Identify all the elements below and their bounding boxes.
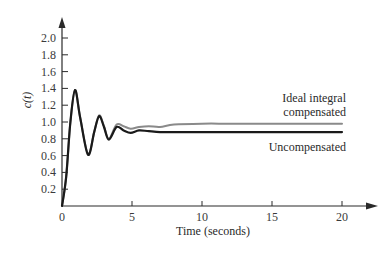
annotation-ideal-line2: compensated	[283, 105, 346, 119]
x-ticks: 05101520	[59, 201, 348, 224]
annotation-ideal-line1: Ideal integral	[282, 91, 346, 105]
y-ticks: 0.20.40.60.81.01.21.41.61.82.0	[41, 31, 68, 196]
x-tick-label: 5	[129, 210, 135, 224]
y-tick-label: 1.4	[41, 81, 56, 95]
y-axis-arrow-icon	[59, 17, 66, 28]
y-tick-label: 1.0	[41, 115, 56, 129]
x-tick-label: 10	[196, 210, 208, 224]
y-tick-label: 1.2	[41, 98, 56, 112]
y-tick-label: 0.2	[41, 182, 56, 196]
step-response-chart: 0.20.40.60.81.01.21.41.61.82.0 05101520 …	[0, 0, 391, 253]
y-tick-label: 2.0	[41, 31, 56, 45]
y-tick-label: 0.6	[41, 149, 56, 163]
x-tick-label: 15	[266, 210, 278, 224]
x-axis-arrow-icon	[366, 203, 378, 210]
x-tick-label: 0	[59, 210, 65, 224]
annotation-uncompensated: Uncompensated	[269, 140, 346, 154]
y-tick-label: 1.8	[41, 48, 56, 62]
y-tick-label: 0.8	[41, 132, 56, 146]
y-tick-label: 0.4	[41, 165, 56, 179]
x-tick-label: 20	[336, 210, 348, 224]
y-tick-label: 1.6	[41, 65, 56, 79]
x-axis-title: Time (seconds)	[176, 224, 250, 238]
y-axis-title: c(t)	[20, 92, 34, 109]
